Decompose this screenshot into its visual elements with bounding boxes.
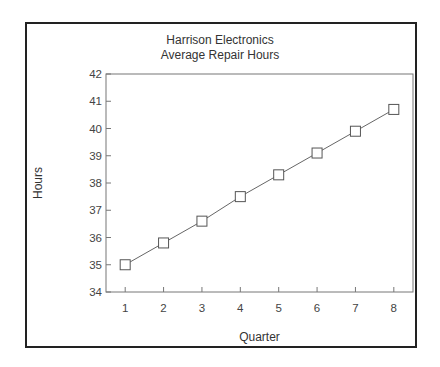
- line-chart: 34353637383940414212345678QuarterHours: [0, 0, 440, 367]
- data-point-marker: [197, 216, 207, 226]
- x-tick-label: 7: [352, 302, 358, 314]
- y-axis-label: Hours: [31, 167, 45, 199]
- x-tick-label: 4: [237, 302, 244, 314]
- y-tick-label: 42: [89, 68, 102, 80]
- y-tick-label: 39: [89, 150, 102, 162]
- data-point-marker: [389, 104, 399, 114]
- data-point-marker: [159, 238, 169, 248]
- y-tick-label: 40: [89, 123, 102, 135]
- y-tick-label: 34: [89, 286, 102, 298]
- x-tick-label: 8: [391, 302, 397, 314]
- x-tick-label: 2: [160, 302, 166, 314]
- data-point-marker: [350, 126, 360, 136]
- data-point-marker: [120, 260, 130, 270]
- x-axis-label: Quarter: [239, 330, 280, 344]
- x-tick-label: 6: [314, 302, 320, 314]
- data-point-marker: [274, 170, 284, 180]
- plot-area: [106, 74, 413, 292]
- x-tick-label: 1: [122, 302, 128, 314]
- y-tick-label: 37: [89, 204, 102, 216]
- x-tick-label: 3: [199, 302, 205, 314]
- y-tick-label: 36: [89, 232, 102, 244]
- x-tick-label: 5: [275, 302, 281, 314]
- data-point-marker: [312, 148, 322, 158]
- y-tick-label: 38: [89, 177, 102, 189]
- y-tick-label: 35: [89, 259, 102, 271]
- y-tick-label: 41: [89, 95, 102, 107]
- data-point-marker: [235, 192, 245, 202]
